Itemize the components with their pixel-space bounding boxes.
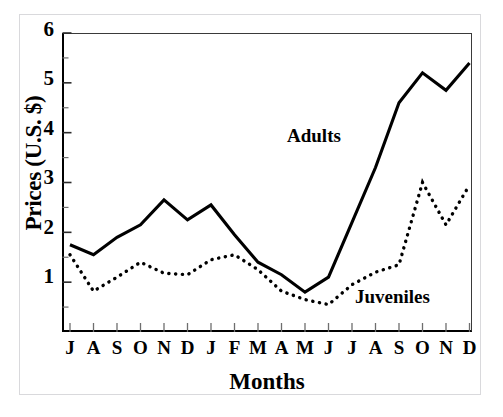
- xtick-label-13: A: [365, 338, 387, 357]
- xtick-label-3: O: [130, 338, 152, 357]
- series-line-juveniles: [70, 183, 470, 305]
- xtick-label-5: D: [177, 338, 199, 357]
- xtick-label-7: F: [224, 338, 246, 357]
- xtick-label-0: J: [59, 338, 81, 357]
- xtick-label-10: M: [294, 338, 316, 357]
- xtick-label-15: O: [412, 338, 434, 357]
- series-line-adults: [70, 63, 470, 292]
- xtick-label-8: M: [247, 338, 269, 357]
- xtick-label-11: J: [318, 338, 340, 357]
- xtick-label-9: A: [271, 338, 293, 357]
- xtick-label-17: D: [459, 338, 481, 357]
- chart-figure: 1 2 3 4 5 6 1 Prices (U.S. $) Months Adu…: [0, 0, 503, 417]
- xtick-label-1: A: [83, 338, 105, 357]
- xtick-label-12: J: [341, 338, 363, 357]
- xtick-label-16: N: [435, 338, 457, 357]
- x-axis-ticks: [70, 323, 470, 332]
- xtick-label-14: S: [388, 338, 410, 357]
- xtick-label-6: J: [200, 338, 222, 357]
- xtick-label-4: N: [153, 338, 175, 357]
- xtick-label-2: S: [106, 338, 128, 357]
